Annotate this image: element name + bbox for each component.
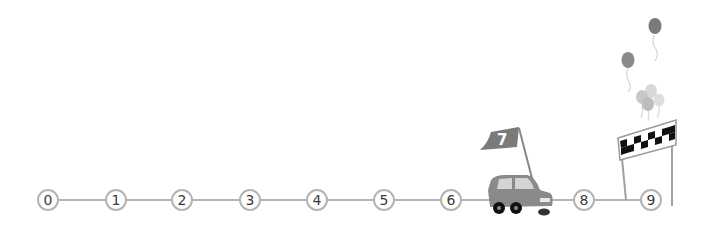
number-node-5: 5	[373, 189, 395, 211]
number-node-0: 0	[37, 189, 59, 211]
number-node-2: 2	[171, 189, 193, 211]
number-node-4: 4	[306, 189, 328, 211]
number-node-8: 8	[573, 189, 595, 211]
svg-text:7: 7	[497, 131, 507, 149]
number-node-6: 6	[440, 189, 462, 211]
number-line-race: 7 0 1 2 3 4 5 6 8 9	[0, 0, 706, 231]
number-node-9: 9	[640, 189, 662, 211]
number-node-3: 3	[239, 189, 261, 211]
car-icon: 7	[480, 127, 553, 216]
number-node-1: 1	[105, 189, 127, 211]
balloons-icon	[622, 18, 665, 121]
